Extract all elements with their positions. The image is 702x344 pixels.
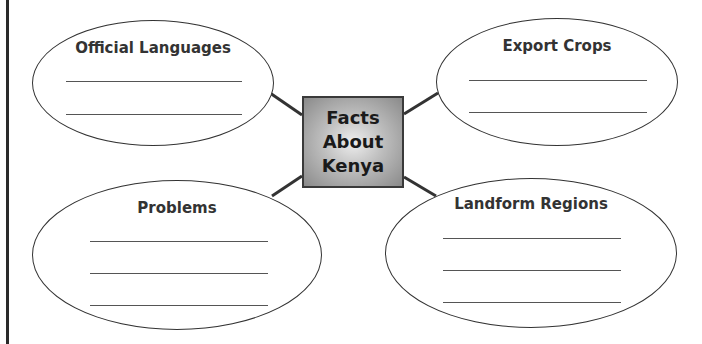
oval-problems: Problems [32,180,322,330]
oval-export-crops: Export Crops [436,18,678,146]
answer-line-2[interactable] [469,112,647,113]
oval-title: Problems [33,199,321,217]
connector-landform-regions [404,177,436,196]
oval-title: Official Languages [33,39,273,57]
oval-title: Landform Regions [386,195,676,213]
center-title-line-2: About [323,130,384,154]
answer-line-2[interactable] [66,114,242,115]
answer-line-2[interactable] [90,273,268,274]
oval-title: Export Crops [437,37,677,55]
oval-official-languages: Official Languages [32,20,274,146]
answer-line-3[interactable] [443,302,621,303]
connector-export-crops [404,93,438,114]
center-topic-box: Facts About Kenya [302,96,404,188]
answer-line-2[interactable] [443,270,621,271]
answer-line-1[interactable] [443,238,621,239]
center-title-line-1: Facts [326,106,379,130]
center-title-line-3: Kenya [322,154,385,178]
oval-landform-regions: Landform Regions [385,178,677,328]
answer-line-1[interactable] [90,241,268,242]
answer-line-1[interactable] [469,80,647,81]
answer-line-3[interactable] [90,305,268,306]
connector-official-languages [270,93,302,115]
answer-line-1[interactable] [66,81,242,82]
connector-problems [272,176,302,196]
